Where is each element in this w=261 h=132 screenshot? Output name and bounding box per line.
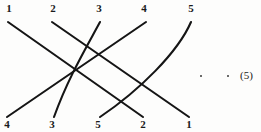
figure-page: 1 2 3 4 5 4 3 5 2 1 (5) bbox=[0, 0, 261, 132]
bottom-label-1: 4 bbox=[0, 118, 14, 130]
ellipsis-dot-2 bbox=[227, 75, 229, 77]
top-label-2: 2 bbox=[46, 2, 60, 14]
top-label-4: 4 bbox=[137, 2, 151, 14]
bottom-label-3: 5 bbox=[91, 118, 105, 130]
bottom-label-5: 1 bbox=[182, 118, 196, 130]
permutation-diagram: 1 2 3 4 5 4 3 5 2 1 (5) bbox=[0, 0, 261, 132]
strand-5-path bbox=[100, 22, 191, 117]
equation-number: (5) bbox=[240, 69, 253, 81]
top-label-1: 1 bbox=[2, 2, 16, 14]
wiring-strands-group bbox=[0, 0, 261, 132]
bottom-label-4: 2 bbox=[136, 118, 150, 130]
bottom-label-2: 3 bbox=[45, 118, 59, 130]
ellipsis-dot-1 bbox=[200, 75, 202, 77]
top-label-5: 5 bbox=[184, 2, 198, 14]
top-label-3: 3 bbox=[92, 2, 106, 14]
